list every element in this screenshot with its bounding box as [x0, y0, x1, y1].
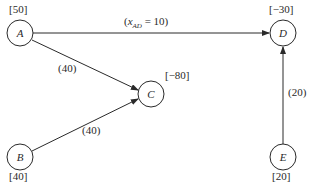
edge-a-d-label: (xAD = 10) — [124, 16, 168, 30]
node-e-supply: [20] — [272, 171, 290, 182]
edge-a-c — [32, 40, 138, 90]
node-d-label: D — [270, 28, 296, 39]
edge-b-c-label: (40) — [82, 125, 100, 136]
network-flow-diagram: A B C D E [50] [40] [−80] [−30] [20] (xA… — [0, 0, 312, 184]
node-c-supply: [−80] — [165, 70, 190, 81]
edge-a-d-var-sub: AD — [133, 22, 142, 30]
node-e-label: E — [270, 152, 296, 163]
node-b-label: B — [7, 152, 33, 163]
node-c-label: C — [138, 89, 164, 100]
edge-e-d-label: (20) — [288, 87, 306, 98]
edge-a-c-label: (40) — [58, 63, 76, 74]
node-a-supply: [50] — [9, 4, 27, 15]
node-d-supply: [−30] — [269, 4, 294, 15]
edge-a-d-label-suffix: = 10) — [142, 15, 168, 27]
node-b-supply: [40] — [9, 171, 27, 182]
node-a-label: A — [7, 28, 33, 39]
